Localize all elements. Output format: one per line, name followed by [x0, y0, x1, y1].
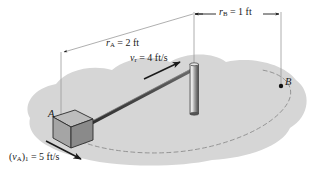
label-point-a-text: A — [48, 108, 54, 119]
label-r-b-value: 1 ft — [238, 6, 252, 17]
label-point-a: A — [48, 109, 54, 120]
vertical-post — [190, 64, 199, 114]
post-bottom-cap — [190, 112, 199, 115]
label-r-a-subscript: A — [110, 41, 115, 48]
label-v-r: vr = 4 ft/s — [130, 53, 168, 64]
label-r-b-subscript: B — [223, 10, 228, 17]
label-v-a-index: 1 — [25, 155, 28, 162]
label-point-b-text: B — [285, 76, 291, 87]
label-v-a-equals: = — [31, 151, 37, 162]
label-v-a-1: (vA)1 = 5 ft/s — [9, 152, 59, 163]
point-b-dot — [279, 84, 283, 88]
label-r-b: rB = 1 ft — [219, 7, 252, 18]
ground-surface — [28, 55, 307, 166]
physics-figure: rA = 2 ft rB = 1 ft vr = 4 ft/s (vA)1 = … — [0, 0, 315, 181]
label-r-a: rA = 2 ft — [106, 38, 139, 49]
label-r-a-equals: = — [117, 37, 123, 48]
label-v-a-value: 5 ft/s — [39, 151, 59, 162]
label-v-r-subscript: r — [134, 56, 136, 63]
label-r-a-value: 2 ft — [125, 37, 139, 48]
label-v-r-value: 4 ft/s — [147, 52, 167, 63]
post-top-cap — [190, 63, 199, 66]
label-v-r-equals: = — [139, 52, 145, 63]
label-point-b: B — [285, 77, 291, 88]
label-r-b-equals: = — [230, 6, 236, 17]
